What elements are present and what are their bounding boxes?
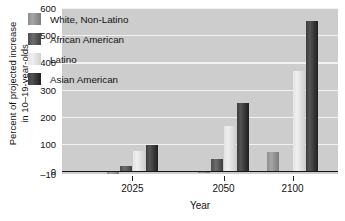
legend: White, Non-LatinoAfrican AmericanLatinoA… <box>28 9 178 89</box>
bar <box>267 152 280 171</box>
y-tick-label: 0 <box>51 166 56 177</box>
zero-baseline <box>62 171 338 173</box>
bar <box>293 71 306 171</box>
legend-label: Asian American <box>50 74 118 85</box>
legend-swatch-icon <box>28 73 41 85</box>
x-tick-label: 2050 <box>212 183 234 194</box>
bar <box>224 126 237 171</box>
chart-figure: Percent of projected increase in 10–19-y… <box>0 0 345 221</box>
bar <box>237 103 250 172</box>
x-axis-title: Year <box>62 200 338 211</box>
y-tick-label: 200 <box>40 111 56 122</box>
legend-label: White, Non-Latino <box>50 14 128 25</box>
bar <box>306 21 319 171</box>
legend-item: African American <box>28 29 178 49</box>
legend-swatch-icon <box>28 53 41 65</box>
bar <box>211 159 224 171</box>
legend-swatch-icon <box>28 33 41 45</box>
x-tick-label: 2025 <box>121 183 143 194</box>
legend-item: Asian American <box>28 69 178 89</box>
legend-label: Latino <box>50 54 77 65</box>
legend-item: White, Non-Latino <box>28 9 178 29</box>
legend-item: Latino <box>28 49 178 69</box>
legend-swatch-icon <box>28 13 41 25</box>
y-tick-label: 100 <box>40 139 56 150</box>
legend-label: African American <box>50 34 124 45</box>
x-tick-label: 2100 <box>281 183 303 194</box>
x-tick-mark <box>293 176 294 181</box>
bar <box>133 151 146 171</box>
x-tick-mark <box>132 176 133 181</box>
x-tick-mark <box>224 176 225 181</box>
bar <box>146 145 159 171</box>
